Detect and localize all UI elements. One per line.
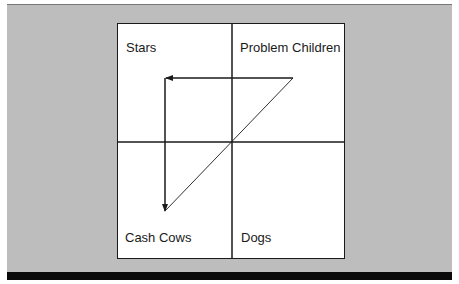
matrix-lines [0,0,459,284]
line-cash-cows-to-problem-children [166,78,293,210]
